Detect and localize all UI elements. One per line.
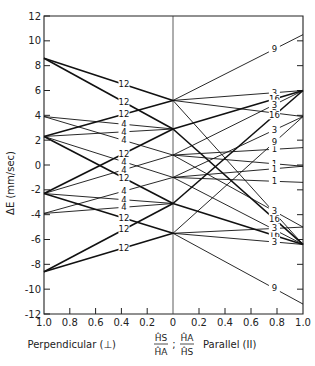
x-tick-label: 0.4: [113, 317, 129, 328]
transition-line: [173, 155, 303, 166]
ratio-separator: ;: [172, 339, 175, 350]
plot-frame: [44, 16, 303, 314]
line-intensity-label: 12: [119, 213, 130, 223]
line-intensity-label: 4: [121, 135, 126, 145]
y-tick-label: 0: [35, 160, 41, 171]
y-tick-label: 12: [28, 11, 41, 22]
line-intensity-label: 4: [121, 202, 126, 212]
y-tick-label: 8: [35, 60, 41, 71]
y-tick-label: 4: [35, 110, 41, 121]
y-tick-label: -10: [25, 284, 41, 295]
transition-line: [173, 148, 303, 155]
line-intensity-label: 3: [272, 206, 277, 216]
transition-line: [44, 129, 173, 136]
ratio-right-num: ĤA: [181, 332, 195, 343]
line-intensity-label: 9: [272, 283, 277, 293]
transition-line: [44, 233, 173, 271]
x-tick-label: 0.4: [217, 317, 233, 328]
line-intensity-label: 1: [272, 164, 277, 174]
line-intensity-label: 3: [272, 100, 277, 110]
line-intensity-label: 4: [121, 127, 126, 137]
y-axis-title: ΔE (mm/sec): [5, 151, 16, 215]
x-tick-label: 0.8: [62, 317, 78, 328]
line-intensity-label: 12: [119, 224, 130, 234]
line-intensity-label: 12: [119, 149, 130, 159]
transition-line: [44, 136, 173, 203]
x-tick-label: 0.6: [88, 317, 104, 328]
transition-line: [173, 177, 303, 182]
x-axis: 1.00.80.60.40.200.20.40.60.81.0: [36, 308, 311, 328]
x-tick-label: 0.6: [243, 317, 259, 328]
line-intensity-label: 1: [272, 176, 277, 186]
ratio-left-num: ĤS: [155, 332, 168, 343]
line-labels: 1212441244121244124412129339161611331133…: [118, 44, 279, 293]
x-tick-label: 1.0: [36, 317, 52, 328]
y-tick-label: 10: [28, 35, 41, 46]
x-tick-label: 0.2: [139, 317, 155, 328]
y-tick-label: 2: [35, 135, 41, 146]
x-axis-title: Perpendicular (⊥)ĤSĤA;ĤAĤSParallel (II): [28, 332, 257, 357]
line-intensity-label: 12: [119, 79, 130, 89]
transition-line: [173, 233, 303, 304]
x-title-perpendicular: Perpendicular (⊥): [28, 339, 117, 350]
ratio-right-den: ĤS: [181, 346, 194, 357]
y-axis: 121086420-2-4-6-8-10-12: [25, 11, 303, 320]
transition-line: [44, 136, 173, 177]
transition-line: [173, 100, 303, 244]
x-tick-label-zero: 0: [170, 317, 176, 328]
transition-line: [173, 203, 303, 244]
energy-splitting-chart: 121086420-2-4-6-8-10-12 1.00.80.60.40.20…: [0, 0, 315, 366]
line-intensity-label: 9: [272, 137, 277, 147]
x-tick-label: 0.2: [191, 317, 207, 328]
line-intensity-label: 3: [272, 125, 277, 135]
transition-line: [173, 227, 303, 233]
line-intensity-label: 3: [272, 237, 277, 247]
data-lines: [44, 35, 303, 304]
y-tick-label: 6: [35, 85, 41, 96]
x-tick-label: 0.8: [269, 317, 285, 328]
plot-border: [44, 16, 303, 314]
y-tick-label: -2: [31, 184, 41, 195]
x-title-parallel: Parallel (II): [203, 339, 256, 350]
y-tick-label: -6: [31, 234, 41, 245]
line-intensity-label: 12: [119, 243, 130, 253]
line-intensity-label: 12: [119, 97, 130, 107]
line-intensity-label: 3: [272, 223, 277, 233]
line-intensity-label: 4: [121, 186, 126, 196]
y-tick-label: -4: [31, 209, 41, 220]
y-tick-label: -8: [31, 259, 41, 270]
x-tick-label: 1.0: [295, 317, 311, 328]
line-intensity-label: 4: [121, 165, 126, 175]
transition-line: [173, 35, 303, 101]
ratio-left-den: ĤA: [155, 346, 169, 357]
line-intensity-label: 12: [119, 109, 130, 119]
line-intensity-label: 9: [272, 44, 277, 54]
line-intensity-label: 16: [269, 110, 280, 120]
